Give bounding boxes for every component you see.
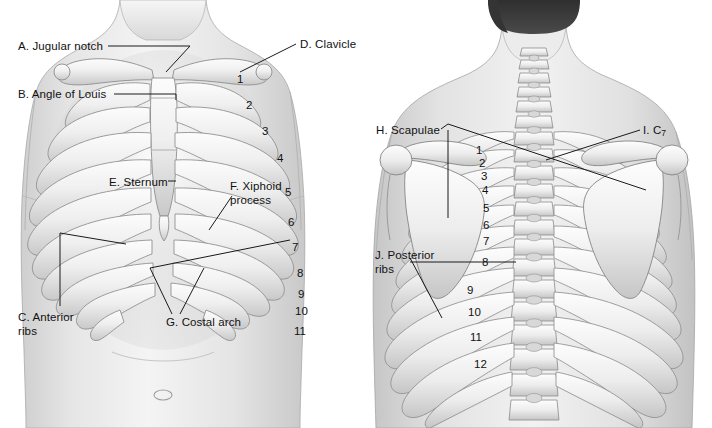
rib-number-anterior-3: 3 <box>262 125 268 137</box>
rib-number-anterior-7: 7 <box>292 241 298 253</box>
rib-number-posterior-11: 11 <box>470 331 482 343</box>
label-anterior-ribs-line1: C. Anterior <box>18 311 74 323</box>
rib-number-posterior-5: 5 <box>483 202 489 214</box>
rib-number-anterior-9: 9 <box>298 288 304 300</box>
rib-number-anterior-6: 6 <box>288 216 294 228</box>
label-angle-of-louis: B. Angle of Louis <box>18 88 106 102</box>
rib-number-posterior-4: 4 <box>482 184 488 196</box>
label-xiphoid-process: F. Xiphoidprocess <box>230 180 282 207</box>
anterior-torso-illustration <box>0 0 356 428</box>
panel-posterior-view: H. Scapulae I. C7 J. Posteriorribs 1 2 3… <box>356 0 712 428</box>
rib-number-anterior-2: 2 <box>246 99 252 111</box>
label-anterior-ribs-line2: ribs <box>18 325 37 337</box>
rib-number-posterior-3: 3 <box>481 170 487 182</box>
rib-number-posterior-7: 7 <box>483 235 489 247</box>
rib-number-anterior-5: 5 <box>285 186 291 198</box>
label-sternum: E. Sternum <box>109 176 168 190</box>
panel-anterior-view: A. Jugular notch B. Angle of Louis D. Cl… <box>0 0 356 428</box>
label-costal-arch: G. Costal arch <box>166 316 241 330</box>
rib-number-posterior-8: 8 <box>482 256 488 268</box>
label-anterior-ribs: C. Anteriorribs <box>18 311 74 338</box>
label-posterior-ribs-line2: ribs <box>375 263 394 275</box>
rib-number-posterior-12: 12 <box>474 358 487 370</box>
label-xiphoid-line2: process <box>230 194 271 206</box>
label-c7: I. C7 <box>643 124 666 141</box>
label-scapulae: H. Scapulae <box>376 124 440 138</box>
rib-number-posterior-1: 1 <box>476 144 482 156</box>
rib-number-posterior-9: 9 <box>467 284 473 296</box>
label-posterior-ribs-line1: J. Posterior <box>375 249 435 261</box>
rib-number-anterior-8: 8 <box>297 267 303 279</box>
anatomy-figure: A. Jugular notch B. Angle of Louis D. Cl… <box>0 0 712 428</box>
label-c7-subscript: 7 <box>661 128 666 138</box>
label-jugular-notch: A. Jugular notch <box>18 40 103 54</box>
rib-number-anterior-4: 4 <box>277 152 283 164</box>
rib-number-posterior-6: 6 <box>483 219 489 231</box>
rib-number-anterior-10: 10 <box>295 305 308 317</box>
label-xiphoid-line1: F. Xiphoid <box>230 180 282 192</box>
label-clavicle: D. Clavicle <box>300 38 356 52</box>
label-posterior-ribs: J. Posteriorribs <box>375 249 435 276</box>
rib-number-posterior-10: 10 <box>468 306 481 318</box>
posterior-torso-illustration <box>356 0 712 428</box>
rib-number-anterior-11: 11 <box>294 325 306 337</box>
rib-number-posterior-2: 2 <box>479 157 485 169</box>
label-c7-prefix: I. C <box>643 124 661 136</box>
rib-number-anterior-1: 1 <box>237 73 243 85</box>
humerus-head-left <box>380 145 412 175</box>
